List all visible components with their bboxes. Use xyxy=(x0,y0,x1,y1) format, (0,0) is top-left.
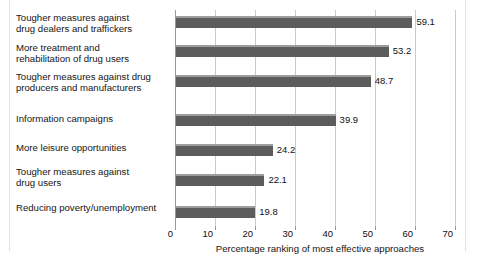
gridline-50 xyxy=(375,10,376,226)
x-tick-label-30: 30 xyxy=(282,228,295,239)
category-label-6: Reducing poverty/unemployment xyxy=(16,202,172,213)
category-label-3: Information campaigns xyxy=(16,113,172,124)
gridline-60 xyxy=(415,10,416,226)
bar-1 xyxy=(176,45,389,57)
category-label-0: Tougher measures against drug dealers an… xyxy=(16,12,172,34)
x-tick-label-60: 60 xyxy=(402,228,415,239)
category-label-0-line2: drug dealers and traffickers xyxy=(16,23,172,34)
bar-value-4: 24.2 xyxy=(277,143,296,156)
tick-mark-0 xyxy=(175,226,176,230)
bar-2 xyxy=(176,75,371,87)
category-label-6-line1: Reducing poverty/unemployment xyxy=(16,202,172,213)
bar-value-1: 53.2 xyxy=(393,44,412,57)
bar-6 xyxy=(176,206,255,218)
bar-value-3: 39.9 xyxy=(340,113,359,126)
category-label-5: Tougher measures against drug users xyxy=(16,166,172,188)
x-tick-label-0: 0 xyxy=(168,228,175,239)
category-label-2-line2: producers and manufacturers xyxy=(16,82,172,93)
bar-value-5: 22.1 xyxy=(268,173,287,186)
category-label-2-line1: Tougher measures against drug xyxy=(16,71,172,82)
tick-mark-30 xyxy=(295,226,296,230)
tick-mark-40 xyxy=(335,226,336,230)
gridline-70 xyxy=(455,10,456,226)
category-label-1: More treatment and rehabilitation of dru… xyxy=(16,42,172,64)
category-label-4-line1: More leisure opportunities xyxy=(16,142,172,153)
bar-0 xyxy=(176,16,412,28)
category-label-0-line1: Tougher measures against xyxy=(16,12,172,23)
category-label-5-line1: Tougher measures against xyxy=(16,166,172,177)
category-label-3-line1: Information campaigns xyxy=(16,113,172,124)
bar-value-0: 59.1 xyxy=(416,15,435,28)
tick-mark-70 xyxy=(455,226,456,230)
x-axis-caption: Percentage ranking of most effective app… xyxy=(175,243,465,254)
category-label-1-line2: rehabilitation of drug users xyxy=(16,53,172,64)
frame-right-border xyxy=(465,0,466,251)
x-tick-label-10: 10 xyxy=(202,228,215,239)
category-label-5-line2: drug users xyxy=(16,177,172,188)
tick-mark-10 xyxy=(215,226,216,230)
bar-value-6: 19.8 xyxy=(259,205,278,218)
tick-mark-20 xyxy=(255,226,256,230)
bar-value-2: 48.7 xyxy=(375,74,394,87)
plot-area: 59.1 53.2 48.7 39.9 24.2 22.1 19.8 xyxy=(175,10,455,226)
category-label-2: Tougher measures against drug producers … xyxy=(16,71,172,93)
x-tick-label-50: 50 xyxy=(362,228,375,239)
x-tick-label-70: 70 xyxy=(442,228,455,239)
bar-4 xyxy=(176,144,273,156)
tick-mark-60 xyxy=(415,226,416,230)
tick-mark-50 xyxy=(375,226,376,230)
frame-left-border xyxy=(9,0,10,251)
bar-5 xyxy=(176,174,264,186)
x-tick-label-40: 40 xyxy=(322,228,335,239)
x-tick-label-20: 20 xyxy=(242,228,255,239)
bar-3 xyxy=(176,114,336,126)
category-label-4: More leisure opportunities xyxy=(16,142,172,153)
category-label-1-line1: More treatment and xyxy=(16,42,172,53)
